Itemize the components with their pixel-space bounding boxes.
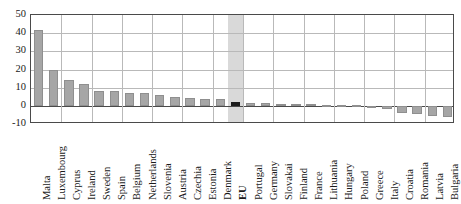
x-tick-label-poland: Poland [360, 171, 371, 200]
x-tick-label-portugal: Portugal [254, 164, 265, 200]
y-tick-label: 0 [21, 100, 26, 110]
x-tick-label-malta: Malta [42, 176, 53, 201]
bar-ireland [79, 84, 88, 106]
x-tick-label-estonia: Estonia [208, 169, 219, 201]
x-axis-labels: MaltaLuxembourgCyprusIrelandSwedenSpainB… [30, 124, 454, 204]
bar-denmark [216, 99, 225, 105]
bar-estonia [200, 99, 209, 106]
x-tick-label-latvia: Latvia [435, 173, 446, 200]
x-tick-label-luxembourg: Luxembourg [57, 146, 68, 200]
x-tick-label-italy: Italy [390, 181, 401, 200]
x-tick-label-finland: Finland [299, 168, 310, 200]
x-tick-label-netherlands: Netherlands [148, 149, 159, 200]
bar-belgium [125, 93, 134, 106]
x-tick-label-bulgaria: Bulgaria [450, 164, 461, 200]
bar-austria [170, 97, 179, 106]
y-tick-label: 40 [16, 27, 27, 37]
bar-netherlands [140, 93, 149, 106]
bar-slovenia [155, 95, 164, 106]
x-tick-label-sweden: Sweden [102, 167, 113, 200]
bar-poland [352, 105, 361, 107]
x-tick-label-spain: Spain [117, 176, 128, 200]
y-tick-label: 20 [16, 64, 27, 74]
x-tick-label-slovenia: Slovenia [163, 163, 174, 200]
bar-finland [291, 104, 300, 106]
bar-spain [110, 91, 119, 106]
x-tick-label-greece: Greece [375, 170, 386, 200]
bar-greece [367, 106, 376, 108]
x-tick-label-hungary: Hungary [344, 163, 355, 200]
x-tick-label-belgium: Belgium [132, 164, 143, 200]
y-tick-label: 50 [16, 9, 27, 19]
x-tick-label-germany: Germany [269, 161, 280, 200]
y-tick-label: 30 [16, 45, 27, 55]
x-tick-label-austria: Austria [178, 169, 189, 200]
x-tick-label-romania: Romania [420, 162, 431, 200]
bar-malta [34, 30, 43, 106]
bar-series [31, 15, 453, 122]
bar-lithuania [322, 105, 331, 107]
bar-portugal [246, 103, 255, 106]
x-tick-label-cyprus: Cyprus [72, 170, 83, 200]
bar-france [306, 104, 315, 106]
cropped-caption-text [0, 0, 460, 4]
bar-croatia [397, 106, 406, 113]
x-tick-label-lithuania: Lithuania [329, 160, 340, 200]
x-tick-label-ireland: Ireland [87, 170, 98, 200]
x-tick-label-croatia: Croatia [405, 169, 416, 200]
bar-italy [382, 106, 391, 109]
bar-bulgaria [443, 106, 452, 117]
y-tick-label: 10 [16, 82, 27, 92]
bar-luxembourg [49, 70, 58, 106]
x-tick-label-czechia: Czechia [193, 166, 204, 200]
bar-slovakai [276, 104, 285, 106]
bar-latvia [428, 106, 437, 116]
y-axis-labels: -1001020304050 [0, 0, 28, 204]
x-tick-label-slovakai: Slovakai [284, 163, 295, 200]
bar-eu [231, 102, 240, 106]
x-tick-label-denmark: Denmark [223, 161, 234, 200]
bar-sweden [94, 91, 103, 106]
bar-romania [412, 106, 421, 114]
bar-cyprus [64, 80, 73, 105]
bar-germany [261, 103, 270, 106]
x-tick-label-france: France [314, 171, 325, 200]
plot-area [30, 14, 454, 123]
bar-hungary [337, 105, 346, 107]
bar-czechia [185, 98, 194, 106]
x-tick-label-eu: EU [238, 185, 249, 200]
y-tick-label: -10 [12, 118, 26, 128]
